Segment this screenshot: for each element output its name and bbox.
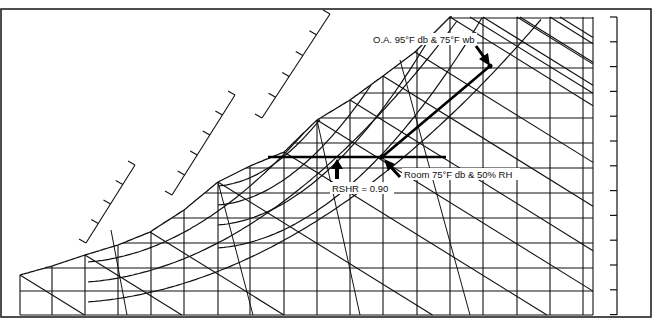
wet-bulb-lines (20, 17, 593, 315)
room-label: Room 75°F db & 50% RH (404, 169, 512, 180)
room-state-point (380, 155, 385, 160)
humidity-ratio-scale (610, 17, 617, 315)
rshr-label: RSHR = 0.90 (332, 183, 388, 194)
oa-label: O.A. 95°F db & 75°F wb (373, 34, 475, 45)
specific-volume-lines (111, 60, 470, 315)
psychrometric-chart: O.A. 95°F db & 75°F wb Room 75°F db & 50… (0, 0, 657, 327)
saturation-curve (20, 17, 452, 275)
rshr-arrow-icon (331, 159, 343, 179)
enthalpy-scales (79, 10, 330, 243)
relative-humidity-curves (88, 18, 541, 302)
